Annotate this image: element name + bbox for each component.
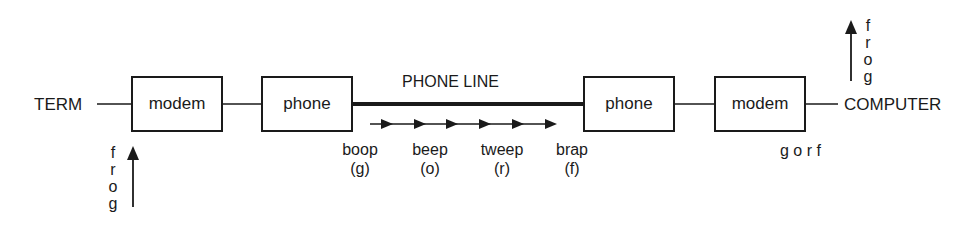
output-up-arrow-icon	[845, 20, 857, 81]
stack-letter: o	[861, 51, 875, 68]
stack-letter: o	[106, 178, 120, 195]
modem-box-right: modem	[714, 76, 806, 132]
tone-sound: beep	[395, 140, 465, 159]
stack-letter: r	[106, 161, 120, 178]
tone-brap: brap (f)	[537, 140, 607, 178]
computer-label: COMPUTER	[844, 96, 941, 113]
arrowhead-icon	[545, 119, 557, 129]
tone-letter: (r)	[467, 159, 537, 178]
modem-right-label: modem	[732, 94, 789, 114]
arrowhead-icon	[414, 119, 426, 129]
input-up-arrow-icon	[127, 146, 139, 207]
stack-letter: f	[861, 17, 875, 34]
stack-letter: f	[106, 144, 120, 161]
arrowhead-icon	[381, 119, 393, 129]
arrowhead-icon	[479, 119, 491, 129]
term-label: TERM	[34, 96, 82, 113]
tone-boop: boop (g)	[325, 140, 395, 178]
tone-beep: beep (o)	[395, 140, 465, 178]
tone-sound: tweep	[467, 140, 537, 159]
arrowhead-icon	[446, 119, 458, 129]
tone-letter: (f)	[537, 159, 607, 178]
received-sequence-label: g o r f	[780, 143, 821, 159]
modem-signal-diagram: TERM COMPUTER modem phone phone modem PH…	[0, 0, 980, 236]
tone-sound: boop	[325, 140, 395, 159]
output-letter-stack: f r o g	[861, 17, 875, 85]
phone-box-right: phone	[583, 76, 675, 132]
tone-letter: (g)	[325, 159, 395, 178]
phone-line-label: PHONE LINE	[402, 74, 499, 90]
stack-letter: g	[861, 68, 875, 85]
input-letter-stack: f r o g	[106, 144, 120, 212]
stack-letter: r	[861, 34, 875, 51]
tone-letter: (o)	[395, 159, 465, 178]
signal-arrow-chain	[370, 119, 557, 129]
tone-sound: brap	[537, 140, 607, 159]
arrowhead-icon	[512, 119, 524, 129]
phone-box-left: phone	[261, 76, 353, 132]
stack-letter: g	[106, 195, 120, 212]
modem-left-label: modem	[149, 94, 206, 114]
phone-right-label: phone	[605, 94, 652, 114]
tone-tweep: tweep (r)	[467, 140, 537, 178]
phone-left-label: phone	[283, 94, 330, 114]
modem-box-left: modem	[131, 76, 223, 132]
